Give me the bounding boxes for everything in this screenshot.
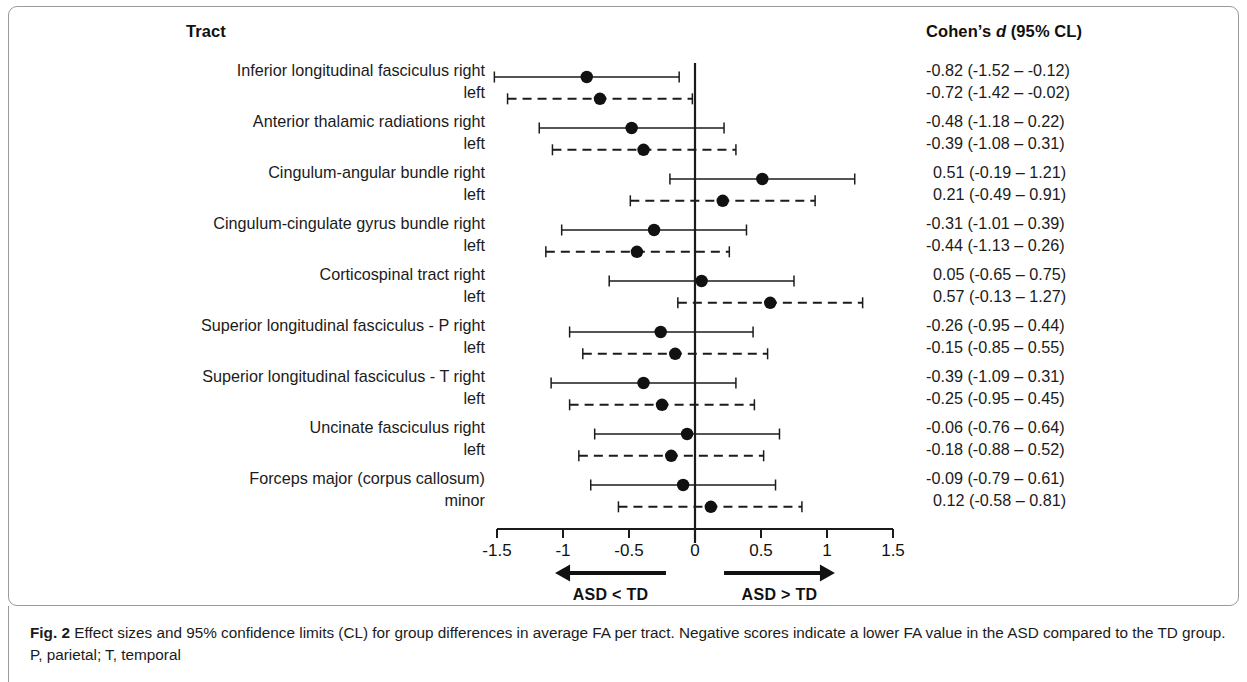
asd-less-than-td-label: ASD < TD [573, 586, 649, 604]
effect-size-marker [705, 501, 717, 513]
confidence-interval-row [630, 195, 815, 207]
confidence-interval-row [583, 348, 768, 360]
confidence-interval-row [562, 224, 747, 236]
effect-size-marker [695, 275, 707, 287]
confidence-interval-row [539, 122, 724, 134]
effect-size-marker [625, 122, 637, 134]
confidence-interval-row [508, 93, 693, 105]
confidence-interval-row [570, 326, 753, 338]
forest-plot-svg [0, 0, 1231, 600]
effect-size-marker [594, 93, 606, 105]
effect-size-marker [677, 479, 689, 491]
x-axis-tick-label: 0.5 [749, 541, 773, 561]
figure-caption-text: Effect sizes and 95% confidence limits (… [30, 624, 1225, 663]
confidence-interval-row [570, 399, 755, 411]
asd-greater-than-td-label: ASD > TD [742, 586, 818, 604]
x-axis-tick-label: -1.5 [482, 541, 511, 561]
confidence-interval-row [609, 275, 794, 287]
x-axis-tick-label: 0 [690, 541, 699, 561]
confidence-interval-row [591, 479, 776, 491]
x-axis-tick-label: -0.5 [614, 541, 643, 561]
asd-greater-than-td-arrow-head [820, 565, 835, 582]
effect-size-marker [669, 348, 681, 360]
confidence-interval-row [678, 297, 863, 309]
effect-size-marker [764, 297, 776, 309]
effect-size-marker [665, 450, 677, 462]
confidence-interval-row [579, 450, 764, 462]
asd-less-than-td-arrow-head [555, 565, 570, 582]
confidence-interval-row [618, 501, 801, 513]
figure-caption: Fig. 2 Effect sizes and 95% confidence l… [30, 622, 1230, 666]
confidence-interval-row [494, 71, 679, 83]
effect-size-marker [581, 71, 593, 83]
effect-size-marker [654, 326, 666, 338]
effect-size-marker [656, 399, 668, 411]
forest-plot: -1.5-1-0.500.511.5ASD < TDASD > TD [0, 0, 1231, 600]
effect-size-marker [637, 144, 649, 156]
confidence-interval-row [595, 428, 780, 440]
confidence-interval-row [552, 144, 735, 156]
effect-size-marker [648, 224, 660, 236]
x-axis-tick-label: -1 [555, 541, 570, 561]
caption-left-rule [8, 606, 9, 682]
x-axis-tick-label: 1 [822, 541, 831, 561]
effect-size-marker [637, 377, 649, 389]
figure-caption-label: Fig. 2 [30, 624, 70, 641]
confidence-interval-row [551, 377, 736, 389]
effect-size-marker [631, 246, 643, 258]
confidence-interval-row [546, 246, 729, 258]
effect-size-marker [756, 173, 768, 185]
x-axis-tick-label: 1.5 [881, 541, 905, 561]
effect-size-marker [717, 195, 729, 207]
confidence-interval-row [670, 173, 855, 185]
effect-size-marker [681, 428, 693, 440]
